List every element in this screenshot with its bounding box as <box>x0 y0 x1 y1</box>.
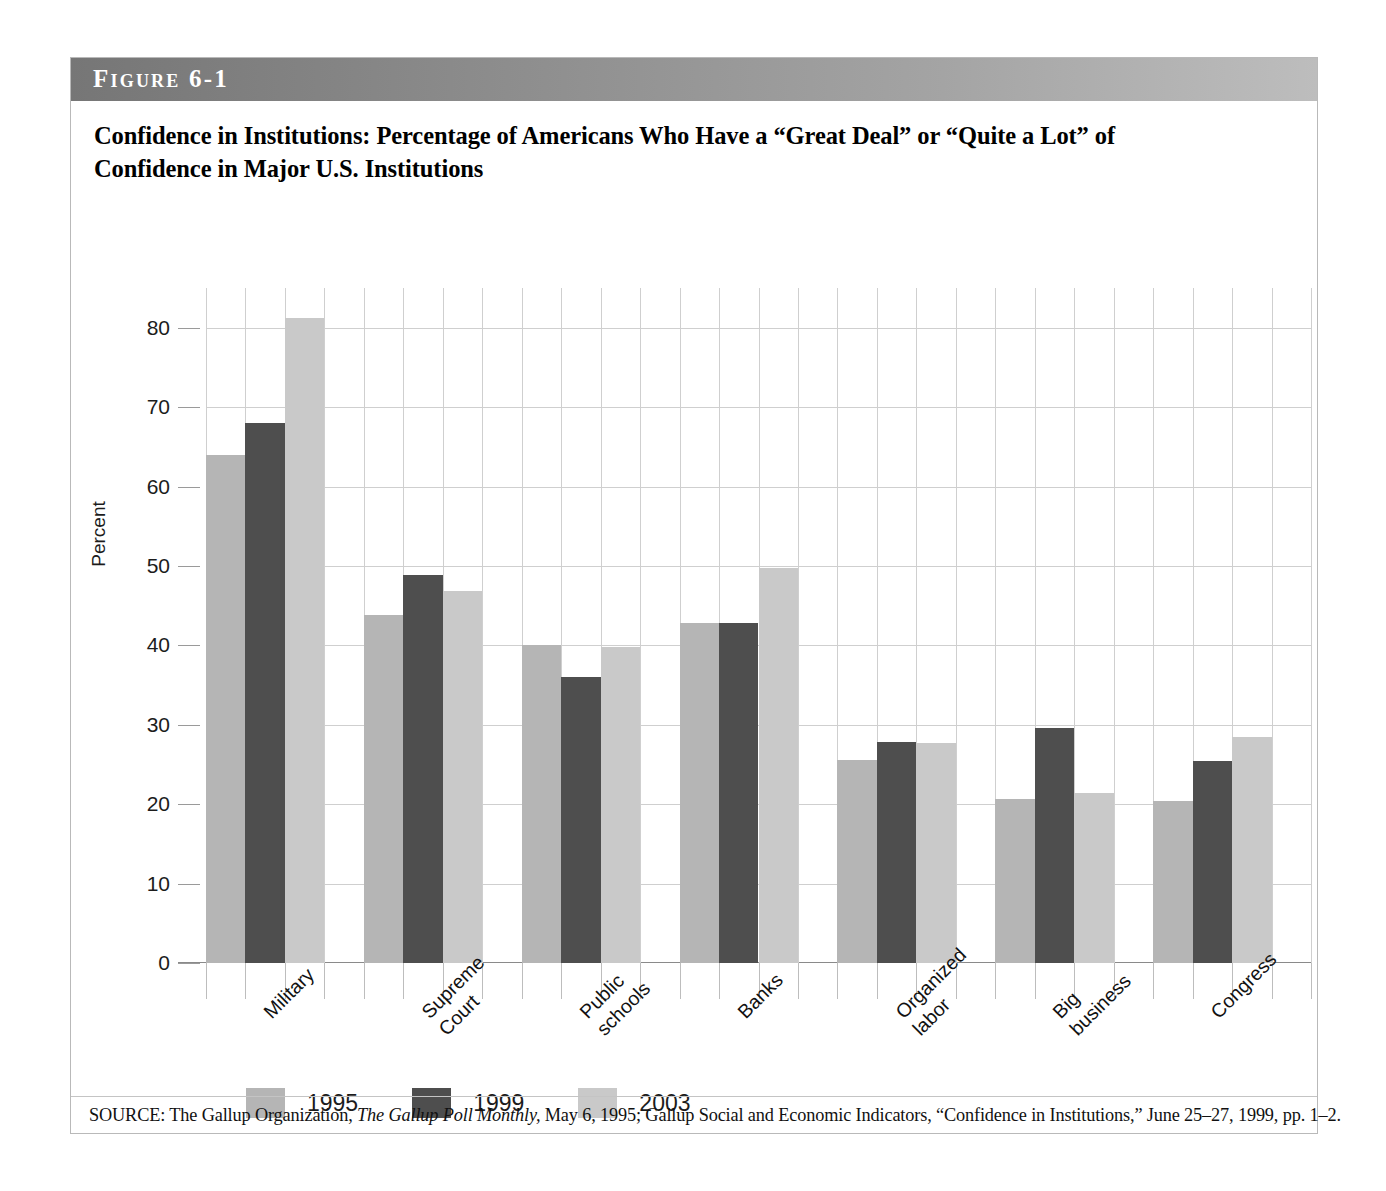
bar <box>916 743 955 963</box>
y-axis-tick-label: 0 <box>158 951 170 975</box>
x-gridline <box>956 288 957 963</box>
bar <box>995 799 1034 963</box>
y-axis-tick-label: 10 <box>147 872 170 896</box>
x-axis-tick <box>1035 963 1036 999</box>
y-axis-tick <box>178 884 200 885</box>
y-axis-tick-label: 60 <box>147 475 170 499</box>
y-axis-tick <box>178 407 200 408</box>
x-axis-tick <box>245 963 246 999</box>
y-axis-tick-label: 20 <box>147 792 170 816</box>
x-gridline <box>1114 288 1115 963</box>
bar <box>443 591 482 963</box>
source-note: SOURCE: The Gallup Organization, The Gal… <box>89 1105 1304 1126</box>
y-axis-tick-label: 80 <box>147 316 170 340</box>
bar <box>601 647 640 963</box>
figure-title: Confidence in Institutions: Percentage o… <box>94 120 1224 185</box>
y-axis-tick <box>178 804 200 805</box>
x-axis-category-label: Banks <box>733 969 788 1024</box>
y-axis-tick-label: 50 <box>147 554 170 578</box>
bar <box>364 615 403 963</box>
bar <box>759 568 798 963</box>
x-axis-tick <box>837 963 838 999</box>
y-axis-tick <box>178 487 200 488</box>
source-suffix: May 6, 1995; Gallup Social and Economic … <box>540 1105 1341 1125</box>
source-divider <box>71 1096 1317 1097</box>
x-axis-tick <box>1193 963 1194 999</box>
x-axis-category-label: Public schools <box>575 960 655 1040</box>
x-axis-tick <box>877 963 878 999</box>
x-gridline <box>482 288 483 963</box>
x-axis-tick <box>561 963 562 999</box>
x-axis-tick <box>522 963 523 999</box>
bar <box>285 318 324 963</box>
bar <box>837 760 876 963</box>
x-gridline <box>1272 288 1273 963</box>
y-axis-tick-label: 40 <box>147 633 170 657</box>
y-axis-tick-label: 70 <box>147 395 170 419</box>
figure-container: Figure 6-1 Confidence in Institutions: P… <box>70 57 1318 1134</box>
bar <box>1232 737 1271 963</box>
y-axis-tick <box>178 645 200 646</box>
source-prefix: SOURCE: The Gallup Organization, <box>89 1105 357 1125</box>
y-axis-tick-label: 30 <box>147 713 170 737</box>
bar <box>1193 761 1232 963</box>
x-axis-tick <box>364 963 365 999</box>
y-axis-tick <box>178 725 200 726</box>
x-axis-category-label: Supreme Court <box>417 951 507 1041</box>
x-gridline <box>798 288 799 963</box>
bar <box>719 623 758 963</box>
x-axis-tick <box>324 963 325 999</box>
y-axis-tick <box>178 566 200 567</box>
x-axis-tick <box>798 963 799 999</box>
bar <box>1035 728 1074 963</box>
bar <box>403 575 442 963</box>
bar <box>522 645 561 963</box>
x-axis-tick <box>206 963 207 999</box>
x-axis-tick <box>995 963 996 999</box>
x-gridline <box>1311 288 1312 963</box>
x-axis-tick <box>1311 963 1312 999</box>
bar <box>1074 793 1113 963</box>
y-axis-tick <box>178 328 200 329</box>
chart-area: Percent 01020304050607080MilitarySupreme… <box>71 203 1317 1108</box>
x-gridline <box>324 288 325 963</box>
x-axis-tick <box>403 963 404 999</box>
y-axis-tick <box>178 963 200 964</box>
x-axis-tick <box>1153 963 1154 999</box>
bar <box>877 742 916 963</box>
figure-number-label: Figure 6-1 <box>93 65 229 93</box>
bar <box>206 455 245 963</box>
x-axis-tick <box>719 963 720 999</box>
bar <box>245 423 284 963</box>
source-publication: The Gallup Poll Monthly, <box>357 1105 540 1125</box>
x-axis-category-label: Big business <box>1048 953 1136 1041</box>
plot-area: 01020304050607080MilitarySupreme CourtPu… <box>206 288 1311 963</box>
bar <box>1153 801 1192 963</box>
bar <box>680 623 719 963</box>
x-axis-category-label: Military <box>259 963 319 1023</box>
y-axis-title: Percent <box>88 454 110 614</box>
bar <box>561 677 600 963</box>
figure-number-band: Figure 6-1 <box>71 58 1317 101</box>
x-gridline <box>640 288 641 963</box>
x-axis-tick <box>680 963 681 999</box>
